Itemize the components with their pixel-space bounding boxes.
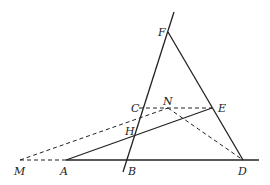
geometry-diagram: M A B D C H N E F	[0, 0, 270, 185]
segment-fd	[168, 32, 243, 160]
dashed-segment-mn	[20, 108, 168, 160]
label-m: M	[13, 165, 26, 178]
dashed-segment-nd	[168, 108, 243, 160]
label-d: D	[237, 165, 247, 178]
label-a: A	[59, 165, 68, 178]
label-b: B	[127, 165, 136, 178]
label-c: C	[131, 102, 140, 115]
line-bf	[123, 12, 174, 172]
label-n: N	[162, 95, 173, 108]
segment-ae	[66, 108, 212, 160]
label-e: E	[217, 102, 226, 115]
label-h: H	[124, 125, 135, 138]
label-f: F	[157, 26, 166, 39]
